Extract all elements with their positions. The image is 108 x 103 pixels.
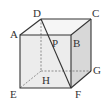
- cube-diagram: D C A B P G H E F: [0, 0, 108, 103]
- label-B: B: [73, 37, 80, 49]
- label-C: C: [92, 7, 99, 19]
- label-A: A: [10, 28, 18, 40]
- label-P: P: [52, 37, 58, 49]
- label-D: D: [33, 7, 41, 19]
- label-H: H: [42, 74, 50, 86]
- label-F: F: [75, 88, 81, 100]
- label-G: G: [93, 64, 101, 76]
- label-E: E: [10, 88, 17, 100]
